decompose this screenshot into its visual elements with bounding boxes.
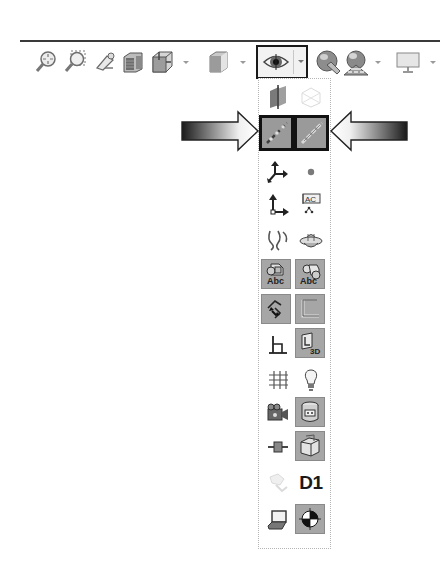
view-center-of-mass-button[interactable] [295,504,325,534]
view-annotations-button[interactable]: Abc [261,259,291,289]
svg-text:Abc: Abc [267,276,284,286]
view-parts-button[interactable] [295,431,325,461]
view-origins-button[interactable] [263,157,293,187]
view-curves-button[interactable] [263,225,293,255]
3d-sketches-icon: 3D [297,330,323,356]
pointer-arrow-left-icon [329,110,409,152]
chevron-down-icon [298,60,304,63]
light-bulb-icon [299,368,323,392]
3d-sketch-plane-icon [266,333,290,357]
apply-scene-icon [343,50,369,76]
center-of-mass-icon [298,507,322,531]
temporary-axes-icon [299,120,325,146]
sketch-planes-icon [299,85,323,109]
view-parting-lines-button[interactable] [296,225,326,255]
previous-view-button[interactable] [93,50,117,74]
apply-scene-dropdown[interactable] [375,59,381,65]
display-style-dropdown[interactable] [240,59,246,65]
view-planes-button[interactable] [263,82,293,112]
parts-icon [297,433,323,459]
planes-icon [267,85,289,109]
view-sketch-planes-button[interactable] [296,82,326,112]
svg-text:AC: AC [305,195,316,204]
routing-point-icon [266,435,290,459]
view-settings-dropdown[interactable] [430,59,436,65]
view-dimension-names-text-button[interactable]: D1 [296,468,326,498]
apply-scene-button[interactable] [343,50,367,74]
edit-appearance-icon [315,50,341,76]
view-axes-button[interactable] [259,115,294,151]
sketch-relations-icon [263,296,289,322]
view-orientation-dropdown[interactable] [183,59,189,65]
split-button-divider [293,50,294,74]
sketches-icon [297,296,323,322]
view-sketch-relations-button[interactable] [261,294,291,324]
display-style-icon [206,50,230,74]
display-style-button[interactable] [206,50,230,74]
camera-icon [265,401,291,425]
hide-show-items-dropdown[interactable] [295,50,306,74]
sketch-dimensions-icon [266,471,290,495]
view-temporary-axes-button[interactable] [294,115,329,151]
zoom-to-area-icon [63,50,87,74]
all-annotations-icon: Abc [297,261,323,287]
point-icon [299,160,323,184]
view-3d-sketch-planes-button[interactable] [263,330,293,360]
zoom-to-fit-button[interactable] [34,50,58,74]
monitor-icon [395,50,421,74]
view-render-window-button[interactable] [263,505,293,535]
view-sketches-button[interactable] [295,294,325,324]
view-lights-button[interactable] [296,365,326,395]
grid-icon [266,368,290,392]
parting-lines-icon [298,228,324,252]
view-orientation-icon [150,50,174,74]
view-decals-button[interactable] [295,397,325,427]
view-orientation-button[interactable] [150,50,174,74]
d1-label: D1 [299,472,322,494]
annotations-icon: Abc [263,261,289,287]
section-view-icon [121,50,145,74]
origin-icon [266,160,290,184]
svg-text:3D: 3D [310,347,320,356]
eye-icon [262,50,290,74]
view-cameras-button[interactable] [263,398,293,428]
decals-icon [297,399,323,425]
svg-text:Abc: Abc [300,276,317,286]
axes-icon [264,120,290,146]
coordinate-system-icon [266,192,290,218]
laptop-icon [266,508,290,532]
view-points-button[interactable] [296,157,326,187]
view-dimension-names-button[interactable]: AC [296,190,326,220]
view-3d-sketches-button[interactable]: 3D [295,328,325,358]
view-settings-button[interactable] [395,50,419,74]
view-coordinate-systems-button[interactable] [263,190,293,220]
edit-appearance-button[interactable] [315,50,339,74]
toolbar-divider-line [20,40,440,42]
curves-icon [266,228,290,252]
zoom-to-area-button[interactable] [63,50,87,74]
dimension-names-icon: AC [299,192,323,218]
previous-view-icon [93,50,117,74]
section-view-button[interactable] [121,50,145,74]
view-sketch-dimensions-button[interactable] [263,468,293,498]
pointer-arrow-right-icon [180,110,260,152]
view-routing-points-button[interactable] [263,432,293,462]
view-all-annotations-button[interactable]: Abc [295,259,325,289]
hide-show-items-button[interactable] [256,45,308,79]
zoom-to-fit-icon [34,50,58,74]
view-grid-button[interactable] [263,365,293,395]
